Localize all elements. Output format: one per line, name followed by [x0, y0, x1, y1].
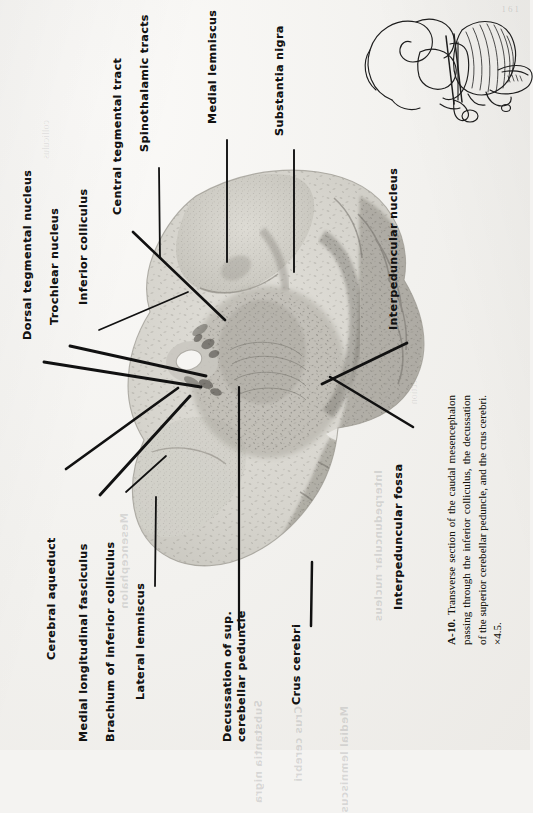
- figure-magnification: ×4.5.: [491, 622, 503, 645]
- label-spinothalamic-tracts: Spinothalamic tracts: [139, 14, 151, 152]
- label-medial-longitudinal-fasciculus: Medial longitudinal fasciculus: [78, 543, 90, 742]
- label-dorsal-tegmental-nucleus: Dorsal tegmental nucleus: [22, 170, 34, 340]
- figure-caption-text: Transverse section of the caudal mesence…: [445, 395, 488, 645]
- label-interpeduncular-nucleus: Interpeduncular nucleus: [388, 168, 400, 330]
- brainstem-orientation-inset: [358, 8, 533, 128]
- label-trochlear-nucleus: Trochlear nucleus: [49, 208, 61, 325]
- label-medial-lemniscus: Medial lemniscus: [207, 10, 219, 124]
- label-inferior-colliculus: Inferior colliculus: [78, 188, 90, 305]
- label-decussation-sup-cerebellar-peduncle-line1: Decussation of sup.: [221, 611, 234, 742]
- label-cerebral-aqueduct: Cerebral aqueduct: [46, 537, 58, 660]
- label-lateral-lemniscus: Lateral lemniscus: [135, 583, 147, 700]
- label-substantia-nigra: Substantia nigra: [274, 25, 286, 136]
- figure-caption: A-10. Transverse section of the caudal m…: [444, 395, 506, 645]
- label-crus-cerebri: Crus cerebri: [291, 624, 303, 705]
- figure-number: A-10.: [445, 619, 457, 645]
- label-interpeduncular-fossa: Interpeduncular fossa: [393, 464, 405, 610]
- label-central-tegmental-tract: Central tegmental tract: [112, 58, 124, 215]
- label-decussation-sup-cerebellar-peduncle-line2: cerebellar peduncle: [235, 610, 248, 742]
- label-brachium-of-inferior-colliculus: Brachium of inferior colliculus: [105, 542, 117, 742]
